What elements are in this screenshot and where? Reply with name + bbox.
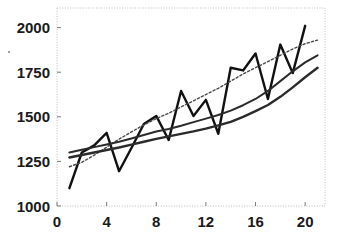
stray-speck-left — [8, 51, 10, 53]
line-chart: 10001250150017502000 048121620 — [0, 0, 340, 241]
y-tick-label-2000: 2000 — [17, 19, 50, 36]
x-tick-label-0: 0 — [53, 213, 61, 230]
x-tick-label-16: 16 — [247, 213, 264, 230]
chart-container: 10001250150017502000 048121620 — [0, 0, 340, 241]
x-tick-label-12: 12 — [198, 213, 215, 230]
chart-background — [0, 0, 340, 241]
x-tick-label-20: 20 — [297, 213, 314, 230]
y-tick-label-1750: 1750 — [17, 64, 50, 81]
y-tick-label-1250: 1250 — [17, 153, 50, 170]
x-tick-label-4: 4 — [102, 213, 111, 230]
y-tick-label-1000: 1000 — [17, 198, 50, 215]
x-tick-label-8: 8 — [152, 213, 160, 230]
y-tick-label-1500: 1500 — [17, 108, 50, 125]
